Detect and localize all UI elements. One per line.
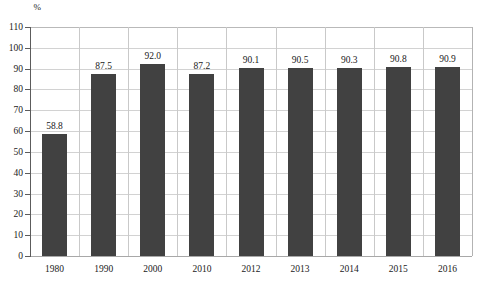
bar [42, 134, 67, 256]
bar [288, 68, 313, 256]
bar-value-label: 87.5 [84, 61, 124, 72]
y-axis-tick-mark [25, 110, 31, 111]
bar [91, 74, 116, 256]
category-divider [423, 27, 424, 256]
y-axis-tick-mark [25, 131, 31, 132]
bar [239, 68, 264, 256]
y-axis-line [30, 27, 31, 257]
category-divider [276, 27, 277, 256]
bar [189, 74, 214, 256]
y-axis-tick-mark [25, 173, 31, 174]
bar-value-label: 90.5 [280, 55, 320, 66]
x-axis-tick-label: 2010 [177, 264, 226, 275]
x-axis-tick-label: 2016 [423, 264, 472, 275]
y-axis-tick-mark [25, 235, 31, 236]
bar-chart: % 110100908070605040302010058.8198087.51… [0, 0, 486, 288]
category-divider [128, 27, 129, 256]
y-axis-tick-label: 50 [0, 147, 23, 157]
y-axis-tick-label: 80 [0, 84, 23, 94]
gridline [30, 48, 472, 49]
y-axis-tick-label: 110 [0, 22, 23, 32]
category-divider [177, 27, 178, 256]
gridline [30, 256, 472, 257]
y-axis-tick-label: 10 [0, 230, 23, 240]
y-axis-tick-label: 90 [0, 64, 23, 74]
bar-value-label: 58.8 [35, 121, 75, 132]
category-divider [226, 27, 227, 256]
y-axis-tick-mark [25, 152, 31, 153]
y-axis-tick-mark [25, 48, 31, 49]
category-divider [79, 27, 80, 256]
bar-value-label: 90.9 [427, 54, 467, 65]
y-axis-tick-mark [25, 27, 31, 28]
bar-value-label: 90.1 [231, 55, 271, 66]
bar [337, 68, 362, 256]
y-axis-tick-label: 40 [0, 168, 23, 178]
y-axis-tick-label: 20 [0, 209, 23, 219]
bar [386, 67, 411, 256]
x-axis-tick-label: 1990 [79, 264, 128, 275]
bar-value-label: 92.0 [133, 51, 173, 62]
y-axis-tick-label: 0 [0, 251, 23, 261]
bar-value-label: 90.8 [378, 54, 418, 65]
x-axis-tick-label: 2014 [325, 264, 374, 275]
y-axis-tick-mark [25, 256, 31, 257]
y-axis-unit-label: % [27, 2, 41, 12]
y-axis-tick-mark [25, 214, 31, 215]
bar-value-label: 90.3 [329, 55, 369, 66]
y-axis-tick-label: 30 [0, 189, 23, 199]
x-axis-tick-label: 1980 [30, 264, 79, 275]
category-divider [472, 27, 473, 256]
y-axis-tick-label: 70 [0, 105, 23, 115]
bar-value-label: 87.2 [182, 61, 222, 72]
x-axis-tick-label: 2012 [227, 264, 276, 275]
bar [435, 67, 460, 256]
category-divider [374, 27, 375, 256]
x-axis-tick-label: 2000 [128, 264, 177, 275]
gridline [30, 27, 472, 28]
y-axis-tick-mark [25, 89, 31, 90]
x-axis-tick-label: 2013 [276, 264, 325, 275]
y-axis-tick-label: 100 [0, 43, 23, 53]
bar [140, 64, 165, 256]
category-divider [325, 27, 326, 256]
y-axis-tick-label: 60 [0, 126, 23, 136]
x-axis-tick-label: 2015 [374, 264, 423, 275]
y-axis-tick-mark [25, 194, 31, 195]
y-axis-tick-mark [25, 69, 31, 70]
